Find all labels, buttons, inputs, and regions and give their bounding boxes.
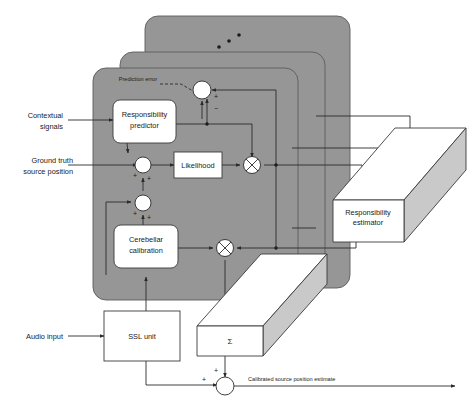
block-diagram: Responsibility estimator Σ Responsibilit… (0, 0, 475, 409)
contextual-signals-line1: Contextual (28, 111, 64, 120)
contextual-signals-line2: signals (40, 122, 63, 131)
responsibility-predictor-label-line2: predictor (130, 121, 159, 130)
label-contextual-signals: Contextual signals (28, 111, 64, 131)
sum-junction-2[interactable] (135, 195, 151, 211)
sign-plus-sum2-left: + (133, 210, 137, 217)
ground-truth-line1: Ground truth (32, 156, 74, 165)
label-calibrated-output: Calibrated source position estimate (248, 376, 335, 382)
calibrated-source-position-estimate-label: Calibrated source position estimate (248, 376, 335, 382)
label-prediction-error: Prediction error (119, 76, 157, 82)
multiplier-1[interactable] (244, 157, 261, 174)
ssl-unit-label: SSL unit (128, 332, 156, 341)
sum-junction-1[interactable] (135, 157, 151, 173)
wire-ssl-to-final-adder (146, 361, 217, 385)
responsibility-estimator-label-line1: Responsibility (345, 208, 391, 217)
label-audio-input: Audio input (26, 332, 63, 341)
cerebellar-calibration-label-line2: calibration (129, 246, 163, 255)
prediction-error-label: Prediction error (119, 76, 157, 82)
sign-plus-sum1-bottom: + (147, 175, 151, 182)
likelihood-block[interactable]: Likelihood (174, 152, 222, 178)
label-ground-truth: Ground truth source position (23, 156, 73, 176)
ssl-unit-block[interactable]: SSL unit (104, 311, 180, 361)
cerebellar-calibration-block[interactable]: Cerebellar calibration (114, 225, 178, 268)
responsibility-predictor-label-line1: Responsibility (122, 110, 168, 119)
sign-plus-final-top: + (214, 367, 218, 374)
sign-plus-final-left: + (202, 376, 206, 383)
responsibility-predictor-block[interactable]: Responsibility predictor (113, 100, 176, 143)
cerebellar-calibration-label-line1: Cerebellar (129, 235, 164, 244)
sign-plus-sum1-left: + (133, 172, 137, 179)
summation-label: Σ (228, 337, 233, 346)
sign-plus-sum2-bottom: + (147, 214, 151, 221)
responsibility-estimator-label-line2: estimator (353, 218, 384, 227)
final-adder-junction[interactable] (216, 377, 234, 395)
responsibility-estimator-block[interactable]: Responsibility estimator (333, 128, 466, 242)
sign-plus-prediction-error: + (214, 93, 218, 100)
multiplier-2[interactable] (217, 240, 234, 257)
ground-truth-line2: source position (23, 167, 73, 176)
sign-minus-prediction-error: − (214, 105, 218, 112)
audio-input-label: Audio input (26, 332, 63, 341)
likelihood-label: Likelihood (181, 161, 214, 170)
diagram-canvas: Responsibility estimator Σ Responsibilit… (0, 0, 475, 409)
